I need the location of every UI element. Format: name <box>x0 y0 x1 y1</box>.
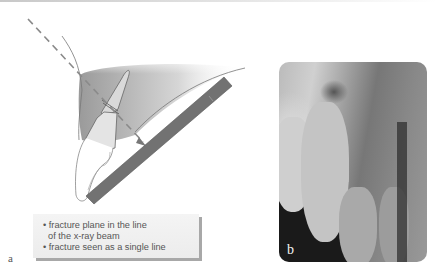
panel-label-b: b <box>287 242 294 258</box>
caption-item: • fracture seen as a single line <box>43 242 199 253</box>
caption-item: of the x-ray beam <box>43 231 199 242</box>
caption-item: • fracture plane in the line <box>43 220 199 231</box>
tooth-erupting <box>339 187 377 262</box>
pdl-gap <box>397 122 407 262</box>
lip-outline <box>62 36 82 140</box>
radiograph: b <box>279 62 427 262</box>
panel-label-a: a <box>8 252 13 264</box>
beam-arrowhead <box>136 137 146 146</box>
caption-box: • fracture plane in the line of the x-ra… <box>33 214 199 258</box>
